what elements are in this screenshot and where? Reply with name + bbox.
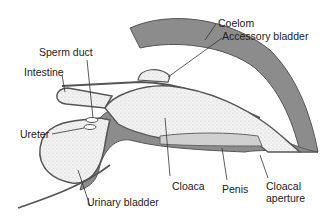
label-urinary-bladder: Urinary bladder — [87, 196, 159, 208]
label-sperm-duct: Sperm duct — [39, 46, 93, 58]
label-accessory-bladder: Accessory bladder — [222, 30, 308, 42]
label-cloaca: Cloaca — [172, 180, 205, 192]
accessory-bladder-shape — [138, 70, 170, 82]
urinary-bladder-shape — [40, 118, 110, 183]
diagram-canvas: Coelom Accessory bladder Sperm duct Inte… — [0, 0, 325, 221]
label-intestine: Intestine — [24, 66, 64, 78]
label-cloacal-aperture-line1: Cloacal — [266, 180, 301, 192]
label-coelom: Coelom — [218, 17, 254, 29]
ureter-tube-1 — [86, 118, 98, 123]
penis-shape — [160, 133, 262, 146]
label-cloacal-aperture-line2: aperture — [266, 192, 305, 204]
label-penis: Penis — [222, 183, 248, 195]
label-ureter: Ureter — [20, 128, 49, 140]
ureter-tube-2 — [84, 125, 96, 130]
